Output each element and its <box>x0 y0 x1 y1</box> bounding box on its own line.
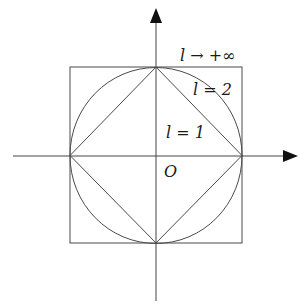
origin-label: O <box>164 162 177 181</box>
x-axis-arrow-icon <box>283 150 298 162</box>
label-l-infinity: l → +∞ <box>180 46 235 65</box>
label-l-2: l = 2 <box>193 80 232 99</box>
label-l-1: l = 1 <box>166 123 205 142</box>
norm-unit-balls-diagram: l → +∞ l = 2 l = 1 O <box>0 0 307 305</box>
y-axis-arrow-icon <box>150 8 162 23</box>
